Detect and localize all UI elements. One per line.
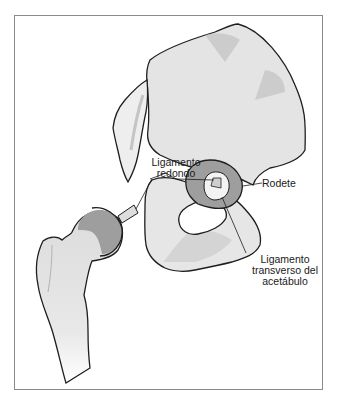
label-line: Rodete [262, 178, 296, 189]
femur-bone [36, 208, 122, 383]
label-rodete: Rodete [262, 178, 296, 189]
label-line: redondo [146, 168, 206, 179]
sacrum-bone [113, 80, 148, 182]
label-ligamento-redondo: Ligamento redondo [146, 157, 206, 179]
label-ligamento-transverso: Ligamento transverso del acetábulo [240, 254, 330, 287]
ligamentum-teres-stump [211, 178, 221, 188]
hip-joint-illustration [0, 0, 337, 399]
round-ligament [118, 205, 138, 223]
label-line: acetábulo [240, 276, 330, 287]
